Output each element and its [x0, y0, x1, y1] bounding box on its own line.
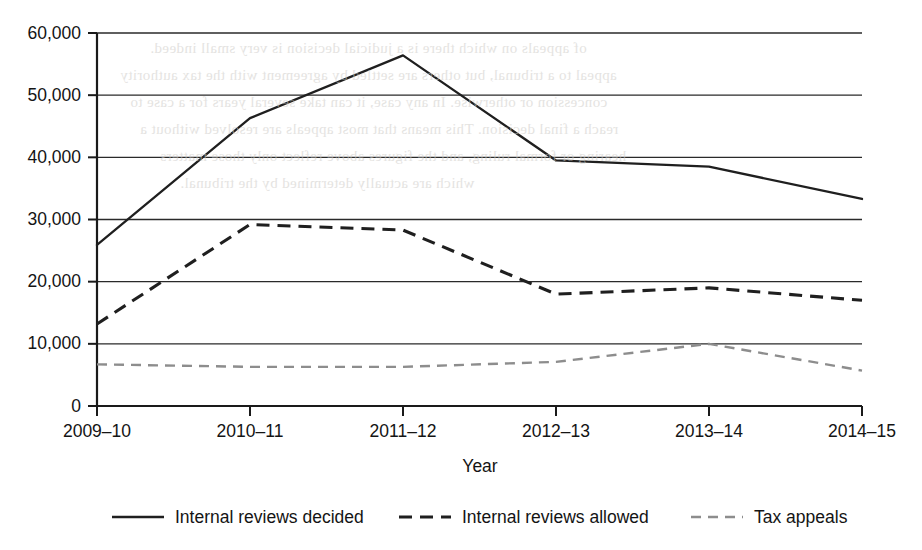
y-tick-label: 40,000 — [27, 147, 81, 167]
y-tick-label: 50,000 — [27, 85, 81, 105]
y-tick-label: 0 — [71, 396, 81, 416]
x-axis-labels-group: 2009–102010–112011–122012–132013–142014–… — [63, 421, 896, 441]
y-axis-labels-group: 010,00020,00030,00040,00050,00060,000 — [27, 23, 81, 416]
y-tick-label: 30,000 — [27, 209, 81, 229]
data-series-group — [97, 55, 862, 370]
x-tick-label: 2011–12 — [370, 421, 437, 441]
series-line-1 — [97, 224, 862, 323]
x-tick-marks-group — [97, 406, 862, 416]
x-tick-label: 2010–11 — [217, 421, 284, 441]
legend-label-1: Internal reviews allowed — [462, 507, 649, 527]
x-tick-label: 2014–15 — [828, 421, 896, 441]
legend-label-2: Tax appeals — [754, 507, 848, 527]
y-tick-label: 60,000 — [27, 23, 81, 43]
series-line-0 — [97, 55, 862, 245]
x-tick-label: 2013–14 — [675, 421, 743, 441]
x-tick-label: 2009–10 — [63, 421, 131, 441]
y-tick-label: 10,000 — [27, 333, 81, 353]
legend-label-0: Internal reviews decided — [175, 507, 364, 527]
chart-legend: Internal reviews decidedInternal reviews… — [112, 507, 848, 527]
y-tick-label: 20,000 — [27, 271, 81, 291]
line-chart: 010,00020,00030,00040,00050,00060,000 20… — [0, 0, 922, 550]
series-line-2 — [97, 344, 862, 371]
y-tick-marks-group — [88, 33, 97, 406]
chart-container: of appeals on which there is a judicial … — [0, 0, 922, 550]
x-tick-label: 2012–13 — [522, 421, 590, 441]
x-axis-title: Year — [462, 456, 498, 476]
